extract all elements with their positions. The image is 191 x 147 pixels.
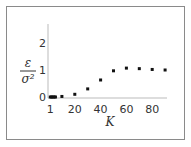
data-point xyxy=(54,96,57,99)
axis-labels: Kεσ² xyxy=(20,56,116,129)
x-axis-label: K xyxy=(105,115,116,129)
x-tick-label: 60 xyxy=(119,103,133,116)
data-point xyxy=(86,87,89,90)
data-point xyxy=(138,67,141,70)
data-point xyxy=(60,95,63,98)
y-axis-label-numerator: ε xyxy=(25,56,31,70)
y-tick-label: 1 xyxy=(39,64,46,77)
y-tick-label: 0 xyxy=(39,91,46,104)
y-tick-label: 2 xyxy=(39,37,46,50)
data-point xyxy=(99,78,102,81)
x-tick-label: 80 xyxy=(145,103,159,116)
x-tick-label: 1 xyxy=(47,103,54,116)
data-point xyxy=(125,67,128,70)
x-tick-label: 20 xyxy=(68,103,82,116)
data-point xyxy=(112,69,115,72)
scatter-chart: 120406080012 Kεσ² xyxy=(0,0,191,147)
data-points xyxy=(49,67,167,99)
axes: 120406080012 xyxy=(39,24,167,116)
data-point xyxy=(164,69,167,72)
y-axis-label-denominator: σ² xyxy=(21,72,34,86)
data-point xyxy=(73,93,76,96)
data-point xyxy=(151,68,154,71)
